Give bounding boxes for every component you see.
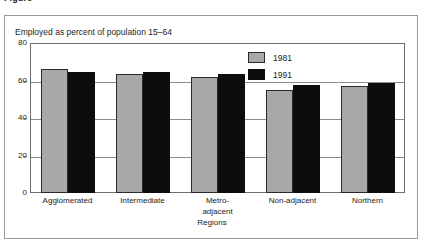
y-tick-mark bbox=[23, 156, 27, 157]
legend-swatch bbox=[248, 69, 265, 80]
x-tick-label: Northern bbox=[329, 196, 407, 207]
chart-legend: 19811991 bbox=[248, 49, 292, 83]
x-tick-label: Agglomerated bbox=[29, 196, 107, 207]
gridline bbox=[31, 157, 404, 158]
y-tick-mark bbox=[23, 118, 27, 119]
legend-item: 1991 bbox=[248, 66, 292, 83]
x-axis: AgglomeratedIntermediateMetro-adjacentNo… bbox=[30, 196, 405, 236]
y-tick-mark bbox=[23, 81, 27, 82]
gridline bbox=[31, 82, 404, 83]
y-tick-label: 0 bbox=[23, 189, 27, 197]
figure-caption: Figure bbox=[4, 0, 58, 3]
chart-subtitle: Employed as percent of population 15–64 bbox=[15, 27, 172, 37]
figure-box: Employed as percent of population 15–64 … bbox=[4, 15, 418, 239]
x-axis-title: Regions bbox=[5, 218, 419, 227]
legend-item: 1981 bbox=[248, 49, 292, 66]
x-tick-label: Metro-adjacent bbox=[179, 196, 257, 217]
figure-caption-label: Figure bbox=[4, 0, 32, 3]
x-tick-label: Non-adjacent bbox=[254, 196, 332, 207]
plot-area bbox=[30, 43, 405, 193]
figure-caption-strip: Figure bbox=[0, 0, 426, 12]
x-tick-label: Intermediate bbox=[104, 196, 182, 207]
legend-label: 1991 bbox=[273, 70, 292, 80]
y-tick-label: 80 bbox=[18, 39, 27, 47]
legend-swatch bbox=[248, 52, 265, 63]
y-axis: 020406080 bbox=[5, 43, 27, 193]
gridline bbox=[31, 119, 404, 120]
legend-label: 1981 bbox=[273, 53, 292, 63]
